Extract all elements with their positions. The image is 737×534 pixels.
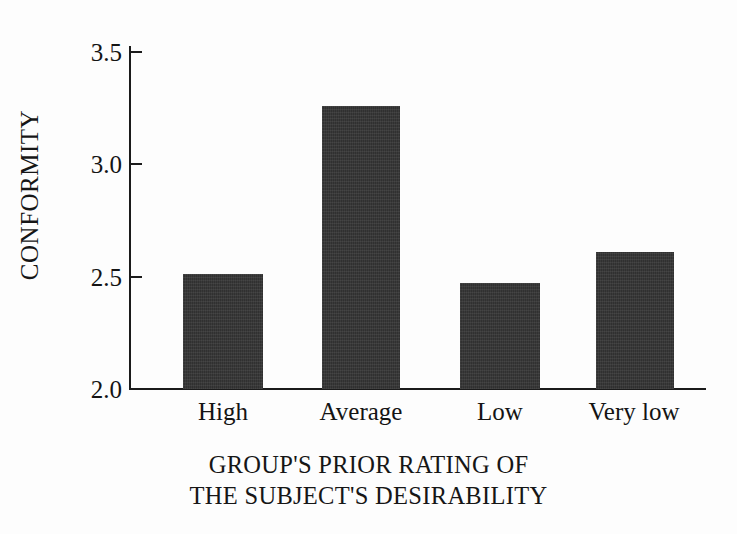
x-axis-title-line-2: THE SUBJECT'S DESIRABILITY (0, 480, 737, 511)
bar-very-low[interactable] (596, 252, 674, 389)
x-tick-label-very-low: Very low (570, 398, 698, 427)
bar-chart-figure: CONFORMITY 3.5 3.0 2.5 2.0 High Average … (0, 0, 737, 534)
plot-area (0, 0, 737, 390)
x-tick-label-low: Low (440, 398, 560, 427)
bar-average[interactable] (322, 106, 400, 389)
x-axis-title: GROUP'S PRIOR RATING OF THE SUBJECT'S DE… (0, 449, 737, 512)
x-tick-label-high: High (163, 398, 283, 427)
x-tick-label-average: Average (300, 398, 422, 427)
bar-high[interactable] (183, 274, 263, 389)
x-axis-title-line-1: GROUP'S PRIOR RATING OF (0, 449, 737, 480)
bar-low[interactable] (460, 283, 540, 389)
